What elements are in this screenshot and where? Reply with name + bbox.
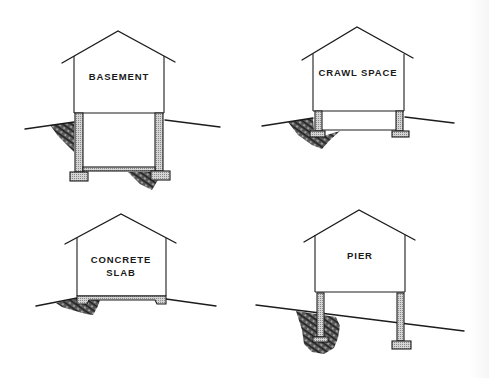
panel-basement: BASEMENT xyxy=(25,31,220,190)
roof xyxy=(304,210,415,242)
roof xyxy=(302,27,413,60)
soil-hatch xyxy=(50,122,74,152)
roof xyxy=(65,214,176,244)
ground-line xyxy=(405,117,454,123)
ground-line xyxy=(166,299,216,306)
scan-edge xyxy=(469,0,489,378)
footing xyxy=(151,171,170,180)
pier-column xyxy=(397,293,404,341)
foundation-wall xyxy=(396,111,403,131)
panel-crawl-space: CRAWL SPACE xyxy=(262,27,454,149)
foundation-wall xyxy=(155,113,163,171)
roof xyxy=(62,31,175,63)
footing xyxy=(313,337,328,342)
footing xyxy=(310,131,325,137)
label-crawl-space: CRAWL SPACE xyxy=(318,67,397,78)
foundation-wall xyxy=(315,111,322,131)
basement-floor xyxy=(83,167,155,171)
footing xyxy=(70,172,88,181)
pier-column xyxy=(317,293,324,337)
footing xyxy=(392,131,409,137)
label-pier: PIER xyxy=(347,250,373,261)
ground-line xyxy=(256,305,464,331)
footing xyxy=(392,341,411,349)
panel-concrete-slab: CONCRETE SLAB xyxy=(36,214,216,315)
label-basement: BASEMENT xyxy=(89,71,150,82)
foundation-types-diagram: BASEMENT CRAWL SPACE CONCRETE SLAB xyxy=(0,0,489,378)
foundation-wall xyxy=(75,113,83,172)
label-slab: SLAB xyxy=(106,267,135,278)
ground-line xyxy=(165,120,220,127)
label-concrete: CONCRETE xyxy=(91,254,152,265)
panel-pier: PIER xyxy=(256,210,464,354)
